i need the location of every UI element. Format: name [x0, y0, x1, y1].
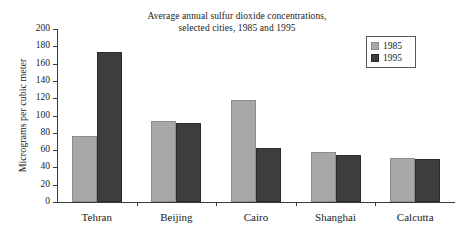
- y-tick-140: 140: [53, 81, 57, 82]
- x-label-tehran: Tehran: [82, 211, 112, 223]
- y-tick-label-60: 60: [41, 144, 51, 154]
- legend-item-1995: 1995: [371, 52, 411, 64]
- x-tick-1: [137, 202, 138, 206]
- x-tick-2: [216, 202, 217, 206]
- y-tick-label-0: 0: [45, 196, 50, 206]
- bar-tehran-1985: [72, 136, 97, 202]
- bar-beijing-1995: [176, 123, 201, 202]
- x-axis-line: [57, 202, 455, 203]
- bar-cairo-1985: [231, 100, 256, 202]
- bar-tehran-1995: [97, 52, 122, 202]
- y-tick-label-100: 100: [36, 110, 50, 120]
- bar-cairo-1995: [256, 148, 281, 202]
- legend-swatch-icon-1985: [371, 42, 379, 50]
- x-tick-4: [375, 202, 376, 206]
- bar-calcutta-1995: [415, 159, 440, 202]
- bar-calcutta-1985: [390, 158, 415, 202]
- y-tick-180: 180: [53, 46, 57, 47]
- y-tick-label-200: 200: [36, 23, 50, 33]
- y-tick-label-180: 180: [36, 40, 50, 50]
- legend-item-1985: 1985: [371, 40, 411, 52]
- y-tick-80: 80: [53, 133, 57, 134]
- x-label-cairo: Cairo: [244, 211, 268, 223]
- y-tick-160: 160: [53, 64, 57, 65]
- y-tick-label-80: 80: [41, 127, 51, 137]
- y-tick-label-140: 140: [36, 75, 50, 85]
- bar-beijing-1985: [151, 121, 176, 202]
- y-tick-label-20: 20: [41, 179, 51, 189]
- x-tick-3: [296, 202, 297, 206]
- y-tick-label-40: 40: [41, 161, 51, 171]
- bar-shanghai-1985: [311, 152, 336, 202]
- y-tick-label-160: 160: [36, 58, 50, 68]
- legend-label-1995: 1995: [383, 53, 402, 63]
- bar-shanghai-1995: [336, 155, 361, 202]
- y-axis-title: Micrograms per cubic meter: [17, 36, 28, 196]
- y-tick-40: 40: [53, 167, 57, 168]
- y-tick-label-120: 120: [36, 92, 50, 102]
- y-tick-200: 200: [53, 29, 57, 30]
- y-tick-60: 60: [53, 150, 57, 151]
- chart-legend: 1985 1995: [366, 36, 416, 68]
- x-label-calcutta: Calcutta: [397, 211, 434, 223]
- y-tick-0: 0: [53, 202, 57, 203]
- y-tick-20: 20: [53, 185, 57, 186]
- y-axis-line: [57, 29, 58, 202]
- y-tick-100: 100: [53, 116, 57, 117]
- legend-label-1985: 1985: [383, 41, 402, 51]
- legend-swatch-icon-1995: [371, 54, 379, 62]
- y-tick-120: 120: [53, 98, 57, 99]
- x-label-shanghai: Shanghai: [315, 211, 356, 223]
- x-label-beijing: Beijing: [160, 211, 192, 223]
- chart-title-line-1: Average annual sulfur dioxide concentrat…: [112, 10, 362, 22]
- sulfur-dioxide-bar-chart: Average annual sulfur dioxide concentrat…: [0, 0, 474, 239]
